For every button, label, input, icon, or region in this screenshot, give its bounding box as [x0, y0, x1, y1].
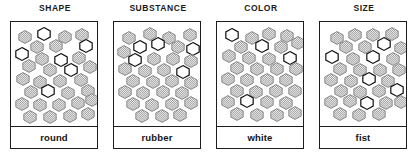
- filled-hexagon-icon: [49, 39, 63, 53]
- filled-hexagon-icon: [372, 107, 386, 121]
- panel-color: COLORwhite: [211, 0, 311, 156]
- open-hexagon-icon: [41, 84, 55, 98]
- panel-shape: SHAPEround: [5, 0, 105, 156]
- hexagon-field-substance: [114, 22, 200, 126]
- filled-hexagon-icon: [394, 95, 406, 109]
- figure-root: SHAPEroundSUBSTANCErubberCOLORwhiteSIZEf…: [0, 0, 418, 156]
- filled-hexagon-icon: [250, 108, 264, 122]
- panel-caption-size: fist: [320, 126, 406, 149]
- open-hexagon-icon: [366, 50, 380, 64]
- filled-hexagon-icon: [333, 107, 347, 121]
- open-hexagon-icon: [151, 37, 165, 51]
- panel-box-size: fist: [319, 21, 407, 149]
- panel-box-color: white: [216, 21, 304, 149]
- filled-hexagon-icon: [63, 109, 77, 123]
- panel-header-color: COLOR: [211, 3, 311, 14]
- open-hexagon-icon: [240, 94, 254, 108]
- filled-hexagon-icon: [260, 95, 274, 109]
- hexagon-field-color: [217, 22, 303, 126]
- hexagon-field-shape: [11, 22, 97, 126]
- panel-caption-color: white: [217, 126, 303, 149]
- filled-hexagon-icon: [15, 97, 29, 111]
- filled-hexagon-icon: [81, 107, 95, 121]
- open-hexagon-icon: [255, 39, 269, 53]
- filled-hexagon-icon: [183, 28, 197, 42]
- open-hexagon-icon: [133, 40, 147, 54]
- filled-hexagon-icon: [43, 110, 57, 124]
- panel-substance: SUBSTANCErubber: [108, 0, 208, 156]
- panel-size: SIZEfist: [314, 0, 414, 156]
- panel-header-substance: SUBSTANCE: [108, 3, 208, 14]
- panel-caption-substance: rubber: [114, 126, 200, 149]
- filled-hexagon-icon: [135, 109, 149, 123]
- filled-hexagon-icon: [16, 72, 30, 86]
- hexagon-field-size: [320, 22, 406, 126]
- panel-box-shape: round: [10, 21, 98, 149]
- filled-hexagon-icon: [23, 110, 37, 124]
- panel-header-size: SIZE: [314, 3, 414, 14]
- filled-hexagon-icon: [288, 106, 302, 120]
- panel-caption-shape: round: [11, 126, 97, 149]
- filled-hexagon-icon: [173, 108, 187, 122]
- filled-hexagon-icon: [85, 93, 97, 107]
- filled-hexagon-icon: [352, 108, 366, 122]
- filled-hexagon-icon: [291, 36, 303, 50]
- panel-box-substance: rubber: [113, 21, 201, 149]
- filled-hexagon-icon: [230, 107, 244, 121]
- filled-hexagon-icon: [343, 94, 357, 108]
- filled-hexagon-icon: [22, 59, 36, 73]
- filled-hexagon-icon: [83, 60, 97, 74]
- open-hexagon-icon: [377, 37, 391, 51]
- filled-hexagon-icon: [155, 109, 169, 123]
- filled-hexagon-icon: [270, 108, 284, 122]
- panel-header-shape: SHAPE: [5, 3, 105, 14]
